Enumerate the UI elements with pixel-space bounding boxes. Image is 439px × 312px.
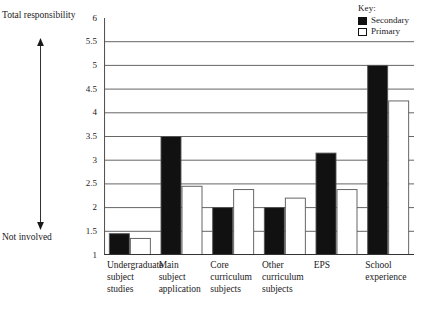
bar-secondary-3 — [264, 208, 284, 255]
x-axis-category-label: Mainsubjectapplication — [159, 259, 207, 295]
x-axis-category-label-line: subjects — [262, 283, 310, 295]
bar-primary-5 — [389, 101, 409, 255]
bar-secondary-1 — [161, 137, 181, 256]
legend-title: Key: — [358, 3, 438, 15]
y-axis-tick-label: 5 — [71, 61, 97, 70]
x-axis-category-label-line: School — [365, 259, 413, 271]
y-axis-tick-label: 6 — [71, 14, 97, 23]
bar-secondary-0 — [109, 234, 129, 255]
x-axis-category-label-line: Core — [210, 259, 258, 271]
y-axis-tick-label: 5.5 — [71, 37, 97, 46]
bar-secondary-5 — [368, 65, 388, 255]
responsibility-scale-annotation: Total responsibility Not involved — [2, 10, 76, 260]
x-axis-category-label-line: curriculum — [210, 271, 258, 283]
scale-top-label: Total responsibility — [2, 10, 76, 22]
x-axis-category-label: EPS — [314, 259, 362, 271]
bar-primary-0 — [130, 238, 150, 255]
x-axis-category-label-line: Other — [262, 259, 310, 271]
x-axis-category-label-line: EPS — [314, 259, 362, 271]
bar-primary-2 — [234, 190, 254, 255]
x-axis-category-labels: UndergraduatesubjectstudiesMainsubjectap… — [104, 259, 414, 311]
bar-secondary-2 — [213, 208, 233, 255]
bar-primary-3 — [285, 198, 305, 255]
x-axis-category-label: Corecurriculumsubjects — [210, 259, 258, 295]
y-axis-tick-label: 1 — [71, 251, 97, 260]
y-axis-tick-label: 2.5 — [71, 179, 97, 188]
bar-secondary-4 — [316, 153, 336, 255]
y-axis-tick-label: 3 — [71, 156, 97, 165]
y-axis-tick-label: 1.5 — [71, 227, 97, 236]
x-axis-category-label: Undergraduatesubjectstudies — [107, 259, 155, 295]
y-axis-tick-label: 3.5 — [71, 132, 97, 141]
scale-bottom-label: Not involved — [2, 232, 76, 244]
x-axis-category-label-line: subjects — [210, 283, 258, 295]
y-axis-tick-label: 4.5 — [71, 85, 97, 94]
bar-primary-1 — [182, 186, 202, 255]
y-axis-tick-label: 4 — [71, 108, 97, 117]
bar-primary-4 — [337, 190, 357, 255]
x-axis-category-label-line: subject — [107, 271, 155, 283]
x-axis-category-label-line: curriculum — [262, 271, 310, 283]
x-axis-category-label-line: studies — [107, 283, 155, 295]
x-axis-category-label-line: Undergraduate — [107, 259, 155, 271]
chart-figure: Key: Secondary Primary Total responsibil… — [0, 0, 439, 312]
x-axis-category-label-line: subject — [159, 271, 207, 283]
x-axis-category-label-line: Main — [159, 259, 207, 271]
x-axis-category-label: Othercurriculumsubjects — [262, 259, 310, 295]
bar-chart-canvas — [104, 18, 414, 255]
double-headed-vertical-arrow-icon — [35, 38, 46, 230]
x-axis-category-label: Schoolexperience — [365, 259, 413, 283]
x-axis-category-label-line: experience — [365, 271, 413, 283]
plot-area — [104, 18, 414, 255]
x-axis-category-label-line: application — [159, 283, 207, 295]
y-axis-tick-label: 2 — [71, 203, 97, 212]
